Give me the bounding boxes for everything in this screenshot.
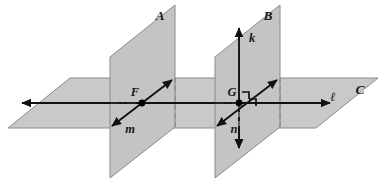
geometry-figure: A B C ℓ m n k F G (0, 0, 385, 184)
plane-b-label: B (262, 8, 272, 23)
line-k-label: k (249, 31, 256, 45)
point-g-label: G (227, 85, 236, 99)
point-f-dot (139, 100, 146, 107)
line-l-label: ℓ (330, 90, 335, 104)
figure-canvas: A B C ℓ m n k F G (0, 0, 385, 184)
point-g-dot (236, 100, 243, 107)
line-m-label: m (125, 122, 135, 136)
plane-a-label: A (154, 8, 164, 23)
plane-a-surface (110, 5, 175, 178)
point-f-label: F (130, 85, 140, 99)
plane-c-label: C (355, 82, 365, 97)
line-n-label: n (231, 122, 238, 136)
